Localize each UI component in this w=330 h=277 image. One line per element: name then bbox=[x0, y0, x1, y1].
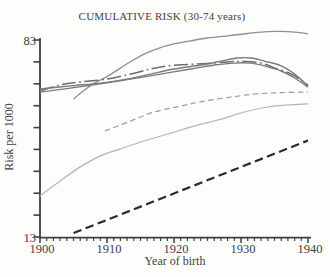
x-tick-label: 1910 bbox=[97, 242, 122, 256]
series-light-solid-curve bbox=[40, 104, 308, 196]
x-tick-label: 1940 bbox=[298, 242, 323, 256]
series-dark-solid-curve-a bbox=[40, 58, 308, 89]
series-black-bold-dashed-line bbox=[74, 141, 309, 234]
x-tick-label: 1920 bbox=[164, 242, 189, 256]
series-upper-solid-curve bbox=[74, 31, 309, 99]
x-tick-label: 1930 bbox=[231, 242, 256, 256]
series-dark-solid-curve-b bbox=[40, 63, 308, 92]
chart-title: CUMULATIVE RISK (30-74 years) bbox=[79, 10, 246, 23]
y-tick-label: 83 bbox=[24, 34, 37, 48]
tick-labels: 831319001910192019301940 bbox=[24, 34, 323, 256]
cumulative-risk-chart: CUMULATIVE RISK (30-74 years) Risk per 1… bbox=[0, 0, 330, 277]
y-axis-title: Risk per 1000 bbox=[2, 103, 16, 170]
data-series bbox=[40, 31, 308, 233]
x-axis-title: Year of birth bbox=[145, 254, 206, 268]
series-medium-dashed-curve bbox=[105, 92, 308, 131]
x-tick-label: 1900 bbox=[30, 242, 55, 256]
chart-canvas: CUMULATIVE RISK (30-74 years) Risk per 1… bbox=[0, 0, 330, 277]
